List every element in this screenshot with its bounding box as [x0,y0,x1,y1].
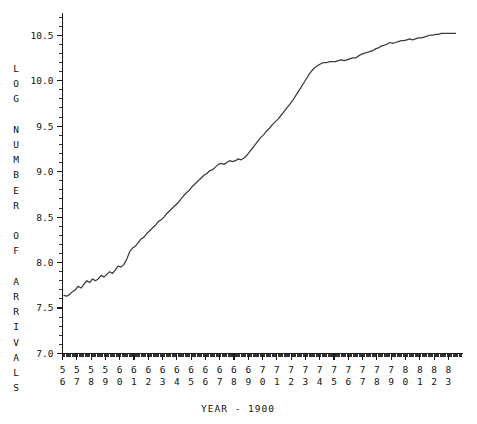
x-tick-label-decade-digit: 6 [203,364,209,375]
x-tick-label-decade-digit: 8 [445,364,451,375]
x-tick-label-year-digit: 1 [131,376,137,387]
x-tick-label-year-digit: 9 [245,376,251,387]
x-tick-label-year-digit: 3 [303,376,309,387]
y-axis-title-letter: A [13,276,19,287]
x-tick-label-year-digit: 8 [231,376,237,387]
x-tick-label-year-digit: 6 [203,376,209,387]
x-tick-label-year-digit: 9 [388,376,394,387]
x-axis-title: YEAR - 1900 [201,403,275,414]
x-tick-label-year-digit: 3 [160,376,166,387]
x-tick-label-decade-digit: 7 [317,364,323,375]
y-tick-label: 7.0 [36,348,53,359]
x-tick-label-year-digit: 8 [88,376,94,387]
x-tick-label-decade-digit: 7 [331,364,337,375]
x-tick-label-decade-digit: 7 [388,364,394,375]
x-tick-label-year-digit: 4 [317,376,323,387]
x-tick-label-decade-digit: 6 [217,364,223,375]
y-axis-title-letter: O [13,78,19,89]
y-axis-title-letter: E [13,185,19,196]
x-tick-label-year-digit: 5 [188,376,194,387]
x-tick-label-year-digit: 8 [374,376,380,387]
x-tick-label-year-digit: 0 [260,376,266,387]
chart-figure: 7.07.58.08.59.09.510.010.5 5657585960616… [0,0,477,424]
x-tick-label-year-digit: 9 [103,376,109,387]
x-tick-label-decade-digit: 6 [117,364,123,375]
y-axis-title-letter: B [13,169,19,180]
x-tick-label-decade-digit: 7 [260,364,266,375]
y-axis-title-letter: L [13,63,19,74]
x-tick-label-decade-digit: 8 [431,364,437,375]
line-chart-svg: 7.07.58.08.59.09.510.010.5 5657585960616… [0,0,477,424]
x-tick-label-decade-digit: 6 [145,364,151,375]
y-axis-title-letter: I [13,321,19,332]
x-tick-label-year-digit: 6 [60,376,66,387]
x-tick-label-year-digit: 7 [74,376,80,387]
x-tick-label-decade-digit: 7 [360,364,366,375]
y-axis-title-letter: G [13,93,19,104]
x-tick-label-decade-digit: 7 [374,364,380,375]
x-tick-label-decade-digit: 7 [345,364,351,375]
y-axis-title-letter: N [13,124,19,135]
x-tick-label-decade-digit: 6 [174,364,180,375]
x-tick-label-decade-digit: 7 [274,364,280,375]
x-tick-label-decade-digit: 6 [245,364,251,375]
y-tick-label: 9.0 [36,166,53,177]
x-tick-label-decade-digit: 6 [160,364,166,375]
y-axis-title-letter: R [13,291,19,302]
x-tick-label-year-digit: 1 [274,376,280,387]
x-tick-label-year-digit: 0 [403,376,409,387]
x-tick-label-year-digit: 5 [331,376,337,387]
y-axis-title-letter: R [13,200,19,211]
x-tick-label-year-digit: 0 [117,376,123,387]
y-tick-label: 7.5 [36,302,53,313]
y-axis-title-letter: V [13,337,19,348]
x-tick-label-year-digit: 7 [360,376,366,387]
x-tick-label-decade-digit: 7 [288,364,294,375]
y-axis-title-letter: F [13,245,19,256]
y-tick-label: 8.0 [36,257,53,268]
x-tick-label-decade-digit: 6 [231,364,237,375]
x-tick-label-decade-digit: 5 [60,364,66,375]
x-tick-label-decade-digit: 8 [417,364,423,375]
x-tick-label-decade-digit: 7 [303,364,309,375]
x-tick-label-year-digit: 7 [217,376,223,387]
x-tick-label-decade-digit: 5 [103,364,109,375]
x-tick-label-decade-digit: 8 [403,364,409,375]
x-tick-label-year-digit: 2 [145,376,151,387]
x-tick-label-decade-digit: 5 [88,364,94,375]
x-tick-label-year-digit: 2 [288,376,294,387]
y-tick-label: 10.5 [31,30,54,41]
y-axis-title-letter: A [13,352,19,363]
x-tick-label-decade-digit: 6 [188,364,194,375]
x-tick-label-year-digit: 3 [445,376,451,387]
chart-background [0,0,477,424]
y-axis-title-letter: L [13,367,19,378]
y-axis-title-letter: M [13,154,19,165]
x-tick-label-year-digit: 2 [431,376,437,387]
y-axis-title-letter: U [13,139,19,150]
y-axis-title-letter: O [13,230,19,241]
x-tick-label-year-digit: 6 [345,376,351,387]
y-tick-label: 9.5 [36,121,53,132]
y-axis-title-letter: R [13,306,19,317]
x-tick-label-decade-digit: 5 [74,364,80,375]
x-tick-label-year-digit: 1 [417,376,423,387]
y-tick-label: 10.0 [31,75,54,86]
x-tick-label-year-digit: 4 [174,376,180,387]
y-axis-title-letter: S [13,382,19,393]
x-tick-label-decade-digit: 6 [131,364,137,375]
y-tick-label: 8.5 [36,212,53,223]
